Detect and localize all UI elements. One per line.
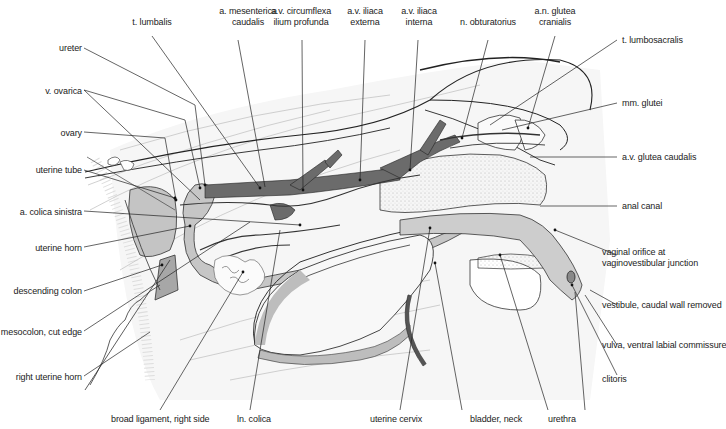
label-an-glutea-cranialis: a.n. gluteacranialis [535, 6, 576, 28]
label-mesocolon-cut-edge: mesocolon, cut edge [1, 327, 82, 338]
label-n-obturatorius: n. obturatorius [460, 17, 516, 28]
vulva-node [567, 271, 575, 283]
label-uterine-cervix: uterine cervix [370, 414, 422, 425]
label-descending-colon: descending colon [14, 286, 82, 297]
label-ln-colica: ln. colica [237, 414, 271, 425]
label-t-lumbosacralis: t. lumbosacralis [622, 35, 683, 46]
label-a-colica-sinistra: a. colica sinistra [20, 207, 82, 218]
label-t-lumbalis: t. lumbalis [132, 17, 171, 28]
label-vulva: vulva, ventral labial commissure [602, 340, 726, 351]
label-av-iliaca-externa: a.v. iliacaexterna [347, 6, 383, 28]
label-broad-ligament: broad ligament, right side [111, 414, 209, 425]
label-vaginal-orifice: vaginal orifice atvaginovestibular junct… [602, 247, 698, 269]
label-vestibule: vestibule, caudal wall removed [602, 300, 722, 311]
label-ureter: ureter [59, 43, 82, 54]
label-ovary: ovary [60, 128, 82, 139]
label-right-uterine-horn: right uterine horn [16, 372, 82, 383]
label-mm-glutei: mm. glutei [622, 98, 663, 109]
label-clitoris: clitoris [602, 374, 627, 385]
label-urethra: urethra [548, 414, 576, 425]
label-uterine-tube: uterine tube [36, 165, 82, 176]
label-av-iliaca-interna: a.v. iliacainterna [401, 6, 437, 28]
label-v-ovarica: v. ovarica [45, 86, 82, 97]
label-av-circumflexa-ilium-profunda: a.v. circumflexailium profunda [271, 6, 331, 28]
label-anal-canal: anal canal [622, 201, 662, 212]
label-av-glutea-caudalis: a.v. glutea caudalis [622, 152, 696, 163]
label-bladder-neck: bladder, neck [470, 414, 522, 425]
label-uterine-horn: uterine horn [35, 243, 82, 254]
label-a-mesenterica-caudalis: a. mesentericacaudalis [219, 6, 277, 28]
